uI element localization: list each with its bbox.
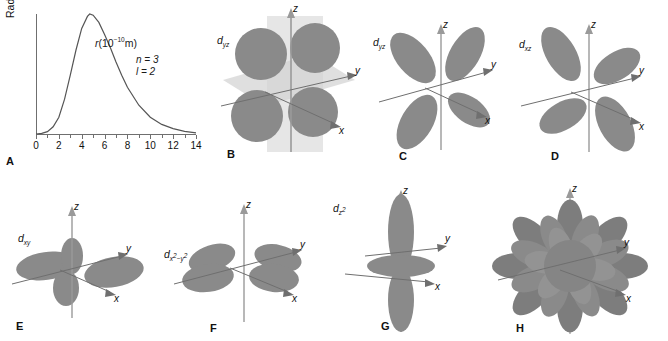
panel-d-orbital: z y x dxz D	[505, 0, 665, 170]
orbital-lobe	[388, 88, 446, 156]
panel-letter-e: E	[16, 320, 23, 332]
chart-line	[36, 14, 196, 134]
orbital-diagram-e: z y x	[10, 188, 170, 338]
x-tick-label: 2	[56, 140, 62, 151]
x-tick-label: 4	[79, 140, 85, 151]
x-tick-label: 12	[168, 140, 179, 151]
panel-letter-f: F	[210, 322, 217, 334]
orbital-label-d: dxz	[519, 38, 531, 52]
annotation-n: n = 3	[136, 54, 159, 66]
orbital-lobe-bottom	[388, 268, 414, 332]
panel-e-orbital: z y x dxy E	[10, 180, 170, 341]
orbital-lobe	[53, 270, 79, 306]
orbital-subscript: yz	[223, 41, 230, 48]
axis-label-y: y	[444, 233, 451, 244]
panel-b-orbital: z y x dyz B	[205, 0, 365, 170]
orbital-lobe	[288, 87, 338, 137]
axis-label-x: x	[113, 293, 120, 304]
panel-h-orbital-superposition: z y x H	[480, 180, 668, 341]
orbital-torus	[367, 255, 435, 277]
orbital-core	[544, 240, 596, 292]
axis-label-z: z	[571, 183, 577, 194]
orbital-diagram-b: z y x	[205, 2, 365, 162]
orbital-sub-y-exponent: 2	[184, 252, 188, 259]
orbital-subscript: yz	[379, 43, 386, 50]
x-tick-label: 6	[102, 140, 108, 151]
panel-letter-g: G	[381, 320, 390, 332]
panel-c-orbital: z y x dyz C	[365, 0, 505, 170]
x-minor-tick	[139, 135, 140, 138]
orbital-subscript: z2	[339, 209, 346, 216]
orbital-label-b: dyz	[217, 34, 229, 48]
orbital-lobe	[533, 91, 592, 141]
panel-letter-c: C	[399, 150, 407, 162]
axis-label-y: y	[125, 243, 132, 254]
radial-probability-curve	[36, 14, 196, 135]
axis-label-y: y	[354, 65, 361, 76]
axis-label-z: z	[442, 19, 448, 30]
orbital-lobes-f	[180, 238, 304, 295]
axis-label-z: z	[402, 185, 408, 196]
orbital-diagram-f: z y x	[160, 188, 330, 338]
orbital-lobe	[180, 261, 235, 296]
x-tick	[196, 135, 197, 139]
orbital-label-f: dx2−y2	[164, 248, 187, 262]
orbital-lobe	[588, 40, 647, 91]
axis-label-x: x	[638, 121, 645, 132]
x-tick	[173, 135, 174, 139]
x-tick	[127, 135, 128, 139]
orbital-diagram-g: z y x	[325, 184, 480, 336]
x-axis-unit-close: m)	[125, 37, 137, 49]
panel-a-radial-distribution-chart: Radial probability distribution 02468101…	[0, 0, 205, 170]
x-tick	[105, 135, 106, 139]
orbital-label-g: dz2	[333, 202, 346, 216]
x-axis-exponent: −10	[114, 36, 125, 43]
panel-f-orbital: z y x dx2−y2 F	[160, 180, 330, 341]
x-tick-label: 8	[125, 140, 131, 151]
orbital-diagram-c: z y x	[365, 10, 505, 170]
orbital-sub-z-exponent: 2	[342, 206, 346, 213]
axis-label-x: x	[625, 293, 632, 304]
axis-label-z: z	[292, 3, 298, 14]
axis-label-y: y	[623, 237, 630, 248]
orbital-lobes-c	[381, 21, 496, 156]
x-minor-tick	[70, 135, 71, 138]
x-tick	[82, 135, 83, 139]
orbital-diagram-h: z y x	[480, 184, 668, 339]
orbital-diagram-d: z y x	[505, 10, 665, 170]
x-axis-title: r(10−10m)	[95, 36, 137, 49]
panel-letter-h: H	[516, 322, 524, 334]
orbital-lobe	[290, 23, 340, 73]
y-axis-label: Radial probability distribution	[4, 0, 16, 18]
axis-label-z: z	[245, 199, 251, 210]
axis-label-x: x	[484, 115, 491, 126]
orbital-subscript: xz	[525, 45, 532, 52]
x-tick	[59, 135, 60, 139]
panel-g-orbital: z y x dz2 G	[325, 180, 480, 341]
x-axis-unit-open: (10	[99, 37, 114, 49]
orbital-lobe	[235, 28, 287, 80]
x-axis-ticks: 02468101214	[36, 135, 196, 155]
axis-label-y: y	[490, 59, 497, 70]
x-minor-tick	[93, 135, 94, 138]
axis-label-z: z	[590, 19, 596, 30]
orbital-lobe	[533, 21, 589, 88]
orbital-lobe	[437, 21, 493, 88]
x-minor-tick	[47, 135, 48, 138]
x-tick-label: 14	[190, 140, 201, 151]
orbital-subscript: xy	[24, 239, 31, 246]
x-minor-tick	[185, 135, 186, 138]
axis-label-y: y	[638, 65, 645, 76]
axis-y-arrow	[437, 244, 447, 252]
axis-label-x: x	[291, 293, 298, 304]
x-tick-label: 0	[33, 140, 39, 151]
axis-label-z: z	[73, 201, 79, 212]
chart-plot-area: 02468101214 r(10−10m) n = 3 l = 2	[36, 14, 196, 134]
orbital-lobe	[442, 86, 496, 135]
x-tick	[36, 135, 37, 139]
annotation-l: l = 2	[136, 66, 159, 78]
orbital-label-e: dxy	[18, 232, 30, 246]
x-minor-tick	[116, 135, 117, 138]
panel-letter-b: B	[227, 148, 235, 160]
orbital-label-c: dyz	[373, 36, 385, 50]
